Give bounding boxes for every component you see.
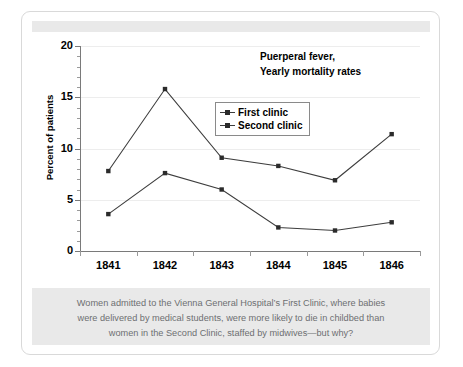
data-point-marker bbox=[219, 187, 223, 191]
legend-item-first-clinic[interactable]: First clinic bbox=[220, 106, 302, 119]
caption-line-3: women in the Second Clinic, staffed by m… bbox=[60, 326, 402, 341]
data-point-marker bbox=[163, 171, 167, 175]
legend-label-second-clinic: Second clinic bbox=[238, 120, 302, 131]
chart-title-line-2: Yearly mortality rates bbox=[260, 65, 420, 80]
data-point-marker bbox=[219, 156, 223, 160]
series-line bbox=[108, 173, 391, 230]
chart-legend: First clinic Second clinic bbox=[215, 102, 310, 136]
data-point-marker bbox=[106, 212, 110, 216]
data-point-marker bbox=[389, 220, 393, 224]
caption-line-2: were delivered by medical students, were… bbox=[60, 311, 402, 326]
data-point-marker bbox=[333, 228, 337, 232]
figure-card: Percent of patients 05101520 18411842184… bbox=[21, 11, 440, 355]
top-decorative-band bbox=[32, 21, 430, 32]
chart-title: Puerperal fever, Yearly mortality rates bbox=[260, 50, 420, 79]
legend-label-first-clinic: First clinic bbox=[238, 107, 288, 118]
line-marker-icon bbox=[220, 121, 235, 130]
data-point-marker bbox=[276, 164, 280, 168]
line-marker-icon bbox=[220, 108, 235, 117]
figure-caption: Women admitted to the Vienna General Hos… bbox=[60, 296, 402, 342]
data-point-marker bbox=[333, 178, 337, 182]
data-point-marker bbox=[276, 225, 280, 229]
data-point-marker bbox=[106, 169, 110, 173]
legend-item-second-clinic[interactable]: Second clinic bbox=[220, 119, 302, 132]
caption-band: Women admitted to the Vienna General Hos… bbox=[32, 288, 430, 345]
chart-plot-area: Percent of patients 05101520 18411842184… bbox=[32, 36, 430, 281]
chart-title-line-1: Puerperal fever, bbox=[260, 50, 420, 65]
data-point-marker bbox=[389, 132, 393, 136]
data-point-marker bbox=[163, 87, 167, 91]
caption-line-1: Women admitted to the Vienna General Hos… bbox=[60, 296, 402, 311]
